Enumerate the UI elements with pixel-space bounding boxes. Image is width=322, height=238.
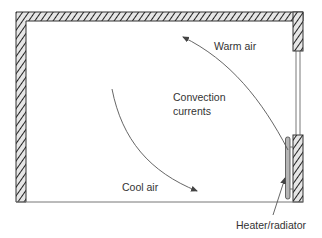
cool-air-label: Cool air [122,181,159,193]
convection-label-line1: Convection [173,91,226,103]
right-wall-upper [293,12,303,51]
warm-air-label: Warm air [214,40,257,52]
heater-label: Heater/radiator [236,219,307,231]
right-wall-lower [293,135,303,202]
heater-leader-arrow [273,178,285,215]
top-left-wall [16,12,303,202]
window [296,51,300,135]
convection-label-line2: currents [173,105,211,117]
room-walls [16,12,303,202]
convection-diagram: Warm air Convection currents Cool air He… [0,0,322,238]
